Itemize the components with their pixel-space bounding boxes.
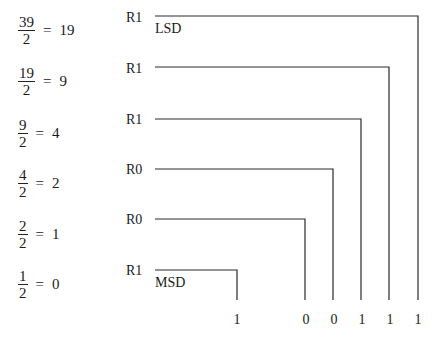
remainder-label: R1 (126, 61, 142, 77)
numerator: 2 (18, 218, 28, 235)
quotient: 0 (52, 276, 60, 293)
division-step-5: 22 = 1 (18, 218, 59, 251)
equals-sign: = (36, 175, 44, 192)
denominator: 2 (18, 285, 28, 301)
equals-sign: = (43, 22, 51, 39)
division-step-1: 392 = 19 (18, 14, 74, 47)
equals-sign: = (43, 73, 51, 90)
equals-sign: = (36, 276, 44, 293)
remainder-label: R0 (126, 162, 142, 178)
numerator: 1 (18, 268, 28, 285)
division-step-6: 12 = 0 (18, 268, 59, 301)
connector-step-2 (155, 67, 389, 300)
result-digit: 1 (412, 312, 424, 328)
lsd-label: LSD (155, 21, 181, 37)
numerator: 4 (18, 167, 28, 184)
division-step-3: 92 = 4 (18, 117, 59, 150)
remainder-label: R0 (126, 212, 142, 228)
denominator: 2 (22, 31, 32, 47)
result-digit: 0 (328, 312, 340, 328)
connector-step-3 (155, 119, 361, 300)
denominator: 2 (18, 184, 28, 200)
numerator: 19 (18, 65, 35, 82)
connector-step-1 (155, 16, 418, 300)
result-digit: 0 (300, 312, 312, 328)
quotient: 19 (59, 22, 74, 39)
result-digit: 1 (384, 312, 396, 328)
numerator: 9 (18, 117, 28, 134)
quotient: 2 (52, 175, 60, 192)
denominator: 2 (18, 235, 28, 251)
quotient: 9 (59, 73, 67, 90)
remainder-label: R1 (126, 112, 142, 128)
connector-lines (0, 0, 436, 337)
equals-sign: = (36, 226, 44, 243)
denominator: 2 (22, 82, 32, 98)
division-step-2: 192 = 9 (18, 65, 67, 98)
denominator: 2 (18, 134, 28, 150)
quotient: 1 (52, 226, 60, 243)
division-step-4: 42 = 2 (18, 167, 59, 200)
result-digit: 1 (356, 312, 368, 328)
remainder-label: R1 (126, 10, 142, 26)
remainder-label: R1 (126, 263, 142, 279)
quotient: 4 (52, 125, 60, 142)
msd-label: MSD (155, 275, 185, 291)
equals-sign: = (36, 125, 44, 142)
numerator: 39 (18, 14, 35, 31)
result-digit: 1 (231, 312, 243, 328)
